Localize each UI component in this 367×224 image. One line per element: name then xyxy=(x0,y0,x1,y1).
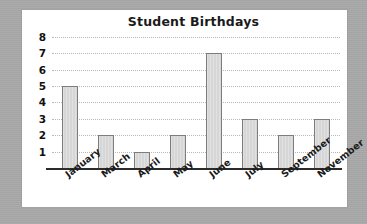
chart-panel: Student Birthdays 87654321 JanuaryMarchA… xyxy=(22,10,347,207)
y-axis-tick-label: 1 xyxy=(30,146,46,157)
y-axis-tick-label: 8 xyxy=(30,32,46,43)
y-axis-tick-label: 7 xyxy=(30,48,46,59)
y-axis-tick-label: 3 xyxy=(30,114,46,125)
gridline xyxy=(52,119,340,120)
bar xyxy=(62,86,78,168)
y-axis-tick-label: 4 xyxy=(30,97,46,108)
y-axis-tick-label: 6 xyxy=(30,64,46,75)
gridline xyxy=(52,102,340,103)
gridline xyxy=(52,53,340,54)
gridline xyxy=(52,135,340,136)
bar xyxy=(206,53,222,168)
gridline xyxy=(52,86,340,87)
plot-area: 87654321 JanuaryMarchAprilMayJuneJulySep… xyxy=(22,10,347,207)
bar-texture xyxy=(207,54,221,168)
y-axis-tick-label: 5 xyxy=(30,81,46,92)
y-axis-tick-label: 2 xyxy=(30,130,46,141)
gridline xyxy=(52,37,340,38)
bar-texture xyxy=(63,87,77,168)
gridline xyxy=(52,70,340,71)
